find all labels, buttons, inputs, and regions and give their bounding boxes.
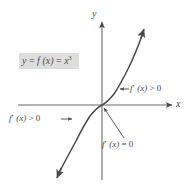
- annotation-zero-relation: = 0: [119, 139, 133, 149]
- annotation-critical-point: f′ (x) = 0: [102, 140, 133, 149]
- equation-label: y = f (x) = x3: [22, 56, 72, 66]
- cubic-function-derivative-figure: y = f (x) = x3 y x f′ (x) > 0 f′ (x) > 0…: [0, 0, 190, 188]
- x-axis-label: x: [176, 99, 180, 109]
- curve-arrow-lower: [57, 168, 61, 178]
- annotation-zero-arg: (x): [107, 139, 119, 149]
- equation-equals-1: =: [26, 55, 37, 66]
- critical-point-leader-line: [104, 108, 124, 138]
- annotation-right-arg: (x): [135, 83, 147, 93]
- annotation-right-relation: > 0: [147, 83, 161, 93]
- annotation-left-arg: (x): [14, 113, 26, 123]
- annotation-left-relation: > 0: [26, 113, 40, 123]
- y-axis-label: y: [92, 9, 96, 19]
- equation-equals-2: =: [53, 55, 64, 66]
- equation-rhs-exponent: 3: [69, 54, 72, 61]
- equation-argument: (x): [40, 55, 54, 66]
- annotation-right-branch: f′ (x) > 0: [130, 84, 161, 93]
- annotation-left-branch: f′ (x) > 0: [9, 114, 40, 123]
- graph-canvas: [0, 0, 190, 188]
